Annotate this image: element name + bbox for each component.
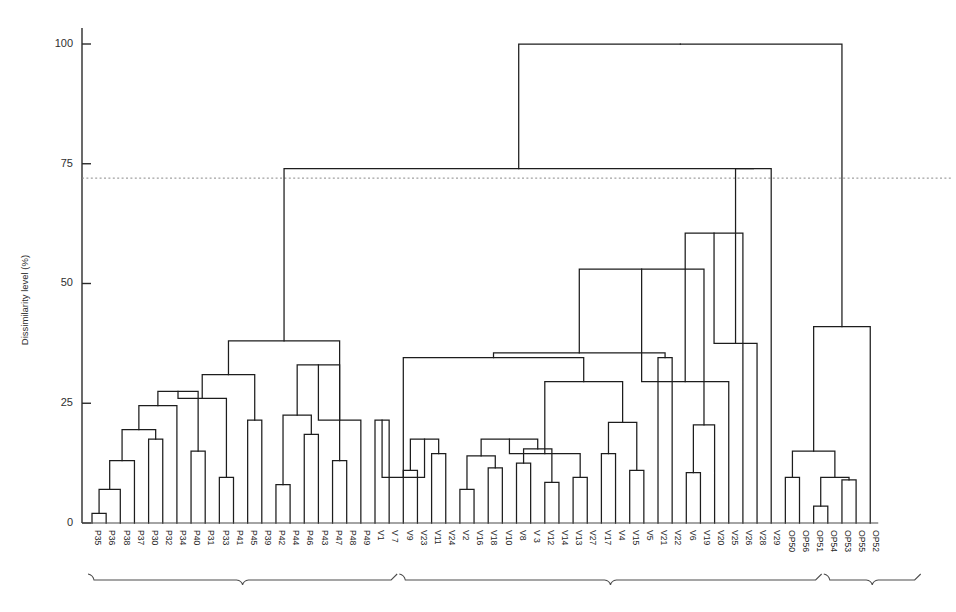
leaf-label-V25: V25 bbox=[730, 530, 740, 546]
dendrogram-link-m16 bbox=[333, 461, 347, 523]
dendrogram-link-n20 bbox=[658, 358, 672, 523]
leaf-label-V8: V8 bbox=[518, 530, 528, 541]
dendrogram-link-n10 bbox=[545, 482, 559, 523]
dendrogram-link-m9 bbox=[219, 477, 233, 523]
leaf-label-V19: V19 bbox=[702, 530, 712, 546]
dendrogram-link-n17 bbox=[608, 422, 636, 470]
leaf-label-V14: V14 bbox=[560, 530, 570, 546]
dendrogram-link-n21 bbox=[494, 353, 666, 358]
y-tick-label-25: 25 bbox=[61, 396, 73, 408]
leaf-label-V27: V27 bbox=[588, 530, 598, 546]
dendrogram-link-m3 bbox=[110, 461, 135, 523]
dendrogram-link-m13 bbox=[276, 485, 290, 523]
y-tick-label-0: 0 bbox=[67, 516, 73, 528]
leaf-label-P48: P48 bbox=[348, 530, 358, 546]
leaf-label-V12: V12 bbox=[546, 530, 556, 546]
leaf-label-P39: P39 bbox=[263, 530, 273, 546]
leaf-label-P40: P40 bbox=[192, 530, 202, 546]
y-axis-title: Dissimilarity level (%) bbox=[19, 255, 30, 345]
dendrogram-link-m8 bbox=[158, 391, 198, 451]
dendrogram-tree bbox=[92, 44, 870, 523]
leaf-label-V23: V23 bbox=[419, 530, 429, 546]
leaf-label-V21: V21 bbox=[659, 530, 669, 546]
leaf-label-P36: P36 bbox=[107, 530, 117, 546]
leaf-label-OP56: OP56 bbox=[801, 530, 811, 552]
y-tick-label-50: 50 bbox=[61, 276, 73, 288]
leaf-label-OP53: OP53 bbox=[843, 530, 853, 552]
leaf-label-P35: P35 bbox=[93, 530, 103, 546]
dendrogram-link-o1 bbox=[785, 477, 799, 523]
dendrogram-link-m6 bbox=[139, 406, 177, 523]
dendrogram-link-n28 bbox=[736, 169, 772, 523]
y-tick-label-75: 75 bbox=[61, 157, 73, 169]
dendrogram-link-n8 bbox=[467, 456, 495, 490]
leaf-label-P30: P30 bbox=[150, 530, 160, 546]
leaf-label-P41: P41 bbox=[235, 530, 245, 546]
dendrogram-link-n19 bbox=[403, 358, 583, 478]
dendrogram-link-m12 bbox=[202, 375, 255, 421]
leaf-label-V1: V1 bbox=[376, 530, 386, 541]
leaf-label-OP54: OP54 bbox=[829, 530, 839, 552]
leaf-label-V29: V29 bbox=[772, 530, 782, 546]
dendrogram-link-n16 bbox=[630, 470, 644, 523]
dendrogram-link-m14 bbox=[304, 434, 318, 523]
leaf-label-P32: P32 bbox=[164, 530, 174, 546]
dendrogram-link-m1 bbox=[92, 513, 106, 523]
leaf-label-V7: V 7 bbox=[390, 530, 400, 543]
group-braces bbox=[88, 574, 921, 585]
dendrogram-link-m15 bbox=[283, 415, 311, 484]
dendrogram-link-root bbox=[519, 44, 842, 327]
dendrogram-link-m19 bbox=[228, 341, 339, 420]
y-axis-title-text: Dissimilarity level (%) bbox=[19, 255, 30, 345]
leaf-label-V22: V22 bbox=[673, 530, 683, 546]
leaf-label-V24: V24 bbox=[447, 530, 457, 546]
dendrogram-link-n18 bbox=[545, 382, 623, 454]
leaf-label-V5: V5 bbox=[645, 530, 655, 541]
leaf-label-P38: P38 bbox=[122, 530, 132, 546]
leaf-label-P37: P37 bbox=[136, 530, 146, 546]
dendrogram-link-n23 bbox=[693, 425, 714, 523]
leaf-label-V11: V11 bbox=[433, 530, 443, 545]
y-tick-label-100: 100 bbox=[55, 37, 73, 49]
dendrogram-link-m4 bbox=[149, 439, 163, 523]
dendrogram-link-m10 bbox=[178, 391, 226, 477]
dendrogram-link-m5 bbox=[122, 430, 156, 461]
dendrogram-link-root_left bbox=[284, 169, 753, 341]
leaf-label-V16: V16 bbox=[475, 530, 485, 546]
dendrogram-link-o3 bbox=[842, 480, 856, 523]
y-axis: 0255075100 bbox=[55, 28, 91, 528]
leaf-label-P45: P45 bbox=[249, 530, 259, 546]
leaf-label-V18: V18 bbox=[489, 530, 499, 546]
dendrogram-link-n2 bbox=[403, 470, 417, 523]
dendrogram-link-o5 bbox=[792, 451, 834, 477]
leaf-label-V20: V20 bbox=[716, 530, 726, 546]
leaf-label-P47: P47 bbox=[334, 530, 344, 546]
brace-group-p bbox=[88, 574, 397, 585]
leaf-label-P43: P43 bbox=[320, 530, 330, 546]
leaf-label-V28: V28 bbox=[758, 530, 768, 546]
leaf-labels: P35P36P38P37P30P32P34P40P31P33P41P45P39P… bbox=[93, 530, 881, 552]
dendrogram-canvas: 0255075100 P35P36P38P37P30P32P34P40P31P3… bbox=[0, 0, 956, 612]
leaf-label-V2: V2 bbox=[461, 530, 471, 541]
dendrogram-link-n9 bbox=[517, 463, 531, 523]
dendrogram-link-n15 bbox=[601, 454, 615, 523]
leaf-label-P42: P42 bbox=[277, 530, 287, 546]
brace-group-op bbox=[824, 574, 921, 585]
leaf-label-P34: P34 bbox=[178, 530, 188, 546]
brace-group-v bbox=[399, 574, 821, 585]
dendrogram-link-n13 bbox=[573, 477, 587, 523]
dendrogram-link-o4 bbox=[821, 477, 849, 506]
leaf-label-P44: P44 bbox=[291, 530, 301, 546]
leaf-label-V15: V15 bbox=[631, 530, 641, 546]
leaf-label-V9: V9 bbox=[405, 530, 415, 541]
dendrogram-link-n22 bbox=[686, 473, 700, 523]
dendrogram-figure: 0255075100 P35P36P38P37P30P32P34P40P31P3… bbox=[0, 0, 956, 612]
leaf-label-V10: V10 bbox=[504, 530, 514, 546]
leaf-label-V6: V6 bbox=[688, 530, 698, 541]
dendrogram-link-n6 bbox=[460, 489, 474, 523]
dendrogram-link-m2 bbox=[99, 489, 120, 523]
leaf-label-V13: V13 bbox=[574, 530, 584, 546]
leaf-label-V17: V17 bbox=[603, 530, 613, 546]
leaf-label-OP52: OP52 bbox=[871, 530, 881, 552]
leaf-label-V4: V4 bbox=[617, 530, 627, 541]
